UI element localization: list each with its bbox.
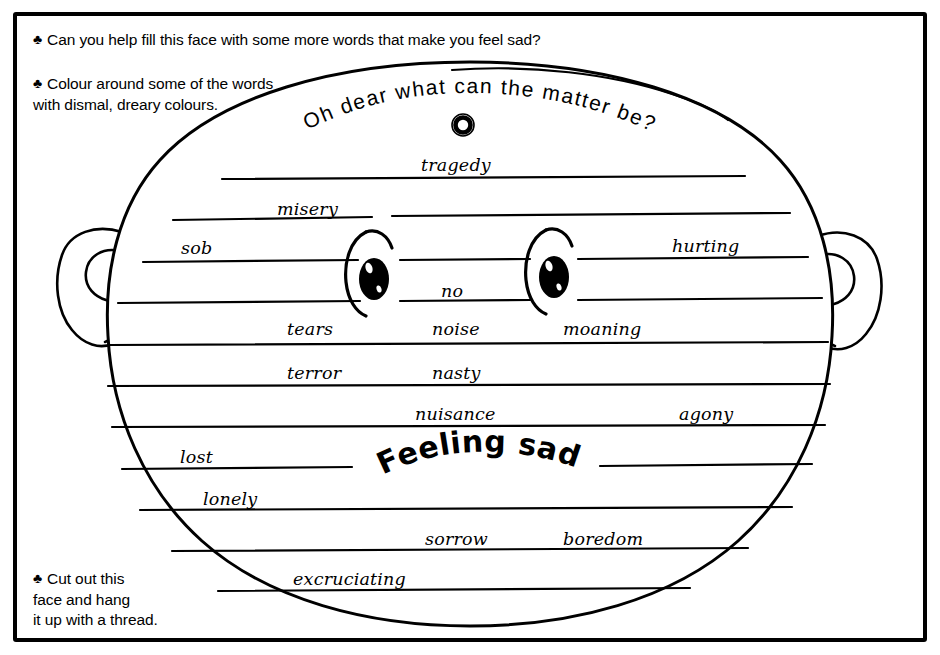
worksheet-page: Oh dear what can the matter be? Feeling … xyxy=(0,0,940,655)
word-label: moaning xyxy=(563,319,641,339)
word-label: no xyxy=(441,281,463,301)
instruction-help-fill-text: Can you help fill this face with some mo… xyxy=(47,31,540,48)
instruction-cut-line1: Cut out this xyxy=(47,570,124,587)
word-label: boredom xyxy=(563,529,643,549)
word-label: lonely xyxy=(203,489,257,509)
club-bullet-icon: ♣ xyxy=(33,31,42,47)
instruction-colour-around: ♣Colour around some of the wordswith dis… xyxy=(33,74,273,115)
word-label: sorrow xyxy=(425,529,488,549)
word-label: sob xyxy=(181,238,212,258)
word-label: tragedy xyxy=(421,155,491,175)
word-label: misery xyxy=(277,199,338,219)
word-label: agony xyxy=(679,404,733,424)
word-label: tears xyxy=(287,319,333,339)
word-label: excruciating xyxy=(293,569,406,589)
ruled-line xyxy=(400,259,530,260)
instruction-cut-line3: it up with a thread. xyxy=(33,610,158,631)
club-bullet-icon: ♣ xyxy=(33,75,42,91)
word-label: hurting xyxy=(672,236,739,256)
word-label: nasty xyxy=(432,363,481,383)
instruction-cut-out: ♣Cut out thisface and hangit up with a t… xyxy=(33,569,158,631)
instruction-help-fill: ♣Can you help fill this face with some m… xyxy=(33,30,540,51)
instruction-cut-line2: face and hang xyxy=(33,590,158,611)
word-label: terror xyxy=(287,363,341,383)
word-label: nuisance xyxy=(415,404,496,424)
ruled-line xyxy=(400,300,530,301)
instruction-colour-line1: Colour around some of the words xyxy=(47,75,273,92)
word-label: lost xyxy=(180,447,213,467)
word-label: noise xyxy=(432,319,480,339)
club-bullet-icon: ♣ xyxy=(33,570,42,586)
instruction-colour-line2: with dismal, dreary colours. xyxy=(33,95,273,116)
